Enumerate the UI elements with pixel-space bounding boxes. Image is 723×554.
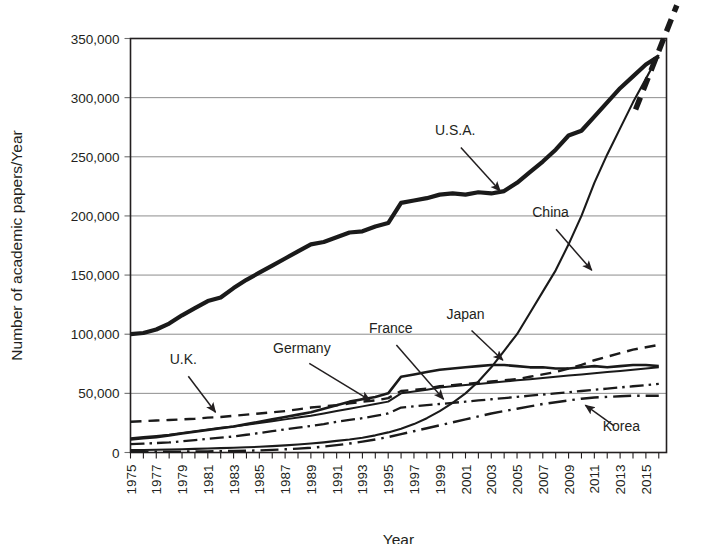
x-tick-label: 2005 xyxy=(510,465,525,495)
chart-figure: 050,000100,000150,000200,000250,000300,0… xyxy=(0,0,723,554)
series-label-china: China xyxy=(532,204,569,220)
x-tick-label: 1999 xyxy=(433,465,448,495)
series-label-japan: Japan xyxy=(446,306,484,322)
x-tick-label: 1987 xyxy=(278,465,293,495)
x-tick-label: 1977 xyxy=(149,465,164,495)
y-tick-label: 250,000 xyxy=(71,150,120,165)
x-tick-label: 2001 xyxy=(459,465,474,495)
y-tick-label: 200,000 xyxy=(71,209,120,224)
x-tick-label: 1997 xyxy=(407,465,422,495)
annotation-leader-u-s-a xyxy=(461,147,500,191)
annotation-leader-germany xyxy=(309,363,370,400)
y-tick-label: 100,000 xyxy=(71,327,120,342)
x-tick-label: 1995 xyxy=(381,465,396,495)
series-label-france: France xyxy=(369,320,413,336)
x-tick-label: 1993 xyxy=(355,465,370,495)
x-tick-label: 2007 xyxy=(536,465,551,495)
x-tick-label: 2011 xyxy=(587,465,602,494)
series-label-u-s-a: U.S.A. xyxy=(435,122,475,138)
y-tick-label: 50,000 xyxy=(78,386,119,401)
y-axis-title: Number of academic papers/Year xyxy=(8,130,25,360)
x-tick-label: 1975 xyxy=(124,465,139,495)
y-tick-label: 0 xyxy=(112,446,120,461)
line-chart-canvas: 050,000100,000150,000200,000250,000300,0… xyxy=(0,0,723,554)
annotation-leader-u-k xyxy=(188,376,215,412)
x-tick-label: 2015 xyxy=(639,465,654,495)
x-tick-label: 1989 xyxy=(304,465,319,495)
x-tick-label: 1979 xyxy=(175,465,190,495)
x-tick-label: 1985 xyxy=(252,465,267,495)
annotation-leader-japan xyxy=(472,331,503,361)
y-tick-label: 300,000 xyxy=(71,91,120,106)
x-tick-label: 1991 xyxy=(330,465,345,495)
x-tick-label: 1981 xyxy=(201,465,216,495)
series-label-germany: Germany xyxy=(273,340,331,356)
series-label-u-k: U.K. xyxy=(170,351,197,367)
annotation-leader-china xyxy=(556,229,592,270)
series-line-germany xyxy=(131,367,659,438)
x-tick-label: 2009 xyxy=(562,465,577,495)
x-tick-label: 2003 xyxy=(484,465,499,495)
y-tick-label: 350,000 xyxy=(71,32,120,47)
x-tick-label: 2013 xyxy=(613,465,628,495)
series-label-korea: Korea xyxy=(603,418,641,434)
x-tick-label: 1983 xyxy=(227,465,242,495)
page-bottom-margin xyxy=(0,544,723,554)
y-tick-label: 150,000 xyxy=(71,268,120,283)
